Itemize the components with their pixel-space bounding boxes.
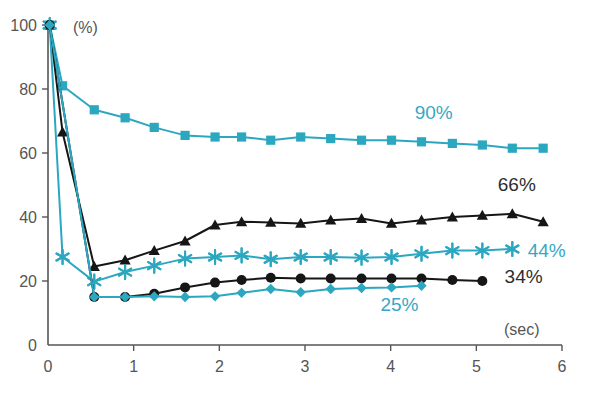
data-point-marker bbox=[416, 281, 426, 291]
data-point-marker bbox=[387, 273, 397, 283]
data-point-marker bbox=[357, 273, 367, 283]
series-label-34pct: 34% bbox=[505, 266, 543, 287]
y-tick-label: 20 bbox=[19, 273, 37, 290]
data-point-marker bbox=[326, 284, 336, 294]
data-point-marker bbox=[57, 250, 69, 264]
chart-axes: 0204060801000123456 bbox=[10, 17, 566, 375]
data-point-marker bbox=[387, 136, 396, 145]
data-point-marker bbox=[539, 144, 548, 153]
data-point-marker bbox=[326, 273, 336, 283]
data-point-marker bbox=[210, 278, 220, 288]
line-chart-plot: 0204060801000123456 90%66%44%34%25% (%)(… bbox=[0, 0, 596, 399]
x-axis-unit-label: (sec) bbox=[504, 321, 540, 338]
chart-unit-labels: (%)(sec) bbox=[73, 19, 540, 338]
data-point-marker bbox=[266, 284, 276, 294]
data-point-marker bbox=[237, 132, 246, 141]
x-tick-label: 2 bbox=[215, 358, 224, 375]
y-tick-label: 100 bbox=[10, 17, 37, 34]
y-tick-label: 0 bbox=[28, 337, 37, 354]
x-tick-label: 6 bbox=[558, 358, 567, 375]
data-point-marker bbox=[508, 144, 517, 153]
data-point-marker bbox=[180, 131, 189, 140]
data-point-marker bbox=[150, 123, 159, 132]
chart-series bbox=[44, 18, 549, 302]
data-point-marker bbox=[447, 275, 457, 285]
series-44pct bbox=[44, 18, 519, 289]
data-point-marker bbox=[478, 140, 487, 149]
data-point-marker bbox=[448, 139, 457, 148]
data-point-marker bbox=[179, 235, 190, 245]
data-point-marker bbox=[296, 287, 306, 297]
y-tick-label: 40 bbox=[19, 209, 37, 226]
x-tick-label: 4 bbox=[386, 358, 395, 375]
data-point-marker bbox=[417, 137, 426, 146]
series-line bbox=[50, 25, 543, 267]
figure-caption bbox=[0, 390, 596, 399]
y-axis-unit-label: (%) bbox=[73, 19, 98, 36]
data-point-marker bbox=[326, 134, 335, 143]
data-point-marker bbox=[236, 288, 246, 298]
data-point-marker bbox=[266, 136, 275, 145]
data-point-marker bbox=[296, 273, 306, 283]
data-point-marker bbox=[89, 292, 99, 302]
series-label-25pct: 25% bbox=[380, 294, 418, 315]
series-label-44pct: 44% bbox=[528, 240, 566, 261]
y-tick-label: 80 bbox=[19, 81, 37, 98]
y-tick-label: 60 bbox=[19, 145, 37, 162]
data-point-marker bbox=[386, 282, 396, 292]
series-label-90pct: 90% bbox=[415, 102, 453, 123]
data-point-marker bbox=[477, 276, 487, 286]
data-point-marker bbox=[180, 282, 190, 292]
data-point-marker bbox=[356, 283, 366, 293]
chart-series-labels: 90%66%44%34%25% bbox=[380, 102, 565, 315]
x-tick-label: 3 bbox=[301, 358, 310, 375]
data-point-marker bbox=[121, 113, 130, 122]
series-line bbox=[50, 25, 513, 282]
data-point-marker bbox=[210, 291, 220, 301]
series-line bbox=[50, 25, 543, 148]
data-point-marker bbox=[237, 275, 247, 285]
x-tick-label: 1 bbox=[129, 358, 138, 375]
series-label-66pct: 66% bbox=[498, 174, 536, 195]
data-point-marker bbox=[210, 132, 219, 141]
data-point-marker bbox=[90, 105, 99, 114]
data-point-marker bbox=[296, 132, 305, 141]
chart-container: 0204060801000123456 90%66%44%34%25% (%)(… bbox=[0, 0, 596, 399]
x-tick-label: 5 bbox=[472, 358, 481, 375]
data-point-marker bbox=[266, 273, 276, 283]
data-point-marker bbox=[180, 292, 190, 302]
data-point-marker bbox=[357, 136, 366, 145]
data-point-marker bbox=[120, 292, 130, 302]
series-90pct bbox=[45, 20, 548, 152]
x-tick-label: 0 bbox=[44, 358, 53, 375]
